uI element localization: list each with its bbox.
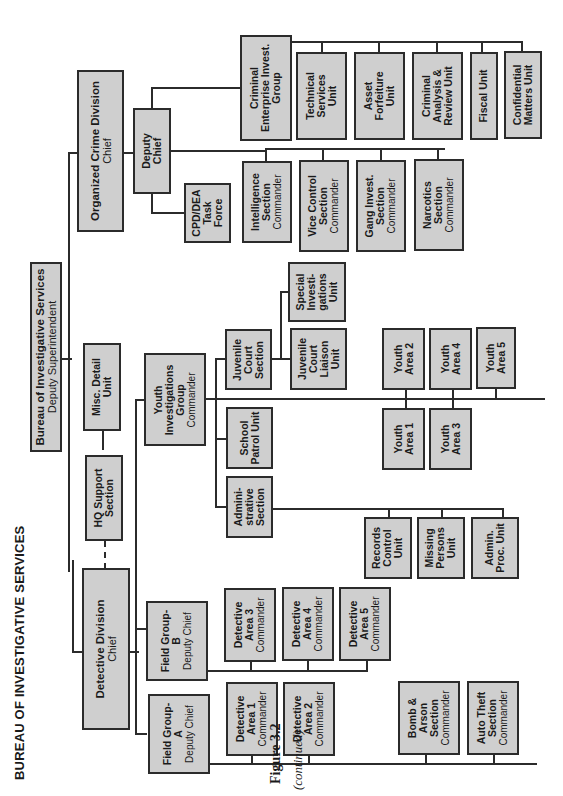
field-group-a-box: Field Group- ADeputy Chief [148,694,210,774]
connector [215,486,217,508]
figure-note: (continued) [290,730,306,790]
box-role: Commander [256,593,267,657]
youth-area-1-box: Youth Area 1 [382,408,425,470]
box-title: Detective Area 4 [291,592,313,656]
box-title: Field Group- B [160,606,182,676]
detective-area-4-box: Detective Area 4Commander [282,587,334,661]
box-role: Commander [387,166,398,246]
auto-theft-section-box: Auto Theft SectionCommander [467,681,519,755]
box-title: Vice Control Section [307,166,329,246]
connector [380,148,382,160]
box-role: Commander [499,688,510,748]
box-title: Deputy Chief [141,121,163,181]
vice-control-section-box: Vice Control SectionCommander [299,160,349,252]
connector [151,193,153,213]
box-title: Misc. Detail Unit [91,352,113,422]
box-title: Youth Area 2 [392,334,414,384]
box-title: School Patrol Unit [238,410,260,466]
box-title: Youth Area 1 [392,414,414,464]
box-title: Fiscal Unit [478,69,489,122]
box-title: Criminal Analysis & Review Unit [421,56,454,136]
page-title: BUREAU OF INVESTIGATIVE SERVICES [12,380,32,780]
box-title: Detective Area 5 [348,592,370,656]
connector [205,398,215,400]
box-role: Commander [314,592,325,656]
bureau-box: Bureau of Investigative ServicesDeputy S… [30,262,62,452]
gang-invest-section-box: Gang Invest. SectionCommander [356,160,406,252]
box-title: CPD/DEA Task Force [191,186,224,240]
juvenile-court-section-box: Juvenile Court Section [225,329,272,390]
box-role: Commander [445,170,456,240]
box-role: Commander [330,166,341,246]
intelligence-section-box: Intelligence SectionCommander [242,161,292,243]
youth-investigations-group-box: Youth Investigations GroupCommander [144,353,206,446]
juvenile-court-liaison-unit-box: Juvenile Court Liaison Unit [290,328,347,390]
box-title: Youth Area 4 [439,334,461,384]
connector [322,148,324,160]
administrative-section-box: Admini- strative Section [226,476,273,538]
box-role: Commander [441,688,452,748]
box-title: Juvenile Court Liaison Unit [296,331,340,387]
box-title: Detective Division [94,599,106,698]
box-role: Commander [315,687,326,751]
box-title: Bomb & Arson Section [407,688,440,748]
connector [151,212,185,214]
box-title: Auto Theft Section [476,688,498,748]
box-title: Special Investi- gations Unit [295,264,339,320]
connector [215,358,217,488]
figure-label: Figure 3.2 [268,724,284,784]
box-title: Organized Crime Division [88,81,100,221]
connector [72,560,74,653]
oc-deputy-chief-box: Deputy Chief [133,108,171,194]
school-patrol-unit-box: School Patrol Unit [226,407,273,469]
youth-area-5-box: Youth Area 5 [476,327,516,389]
field-group-b-box: Field Group- BDeputy Chief [146,601,208,681]
detective-area-3-box: Detective Area 3Commander [224,588,276,662]
connector [68,152,70,572]
box-title: Field Group- A [162,699,184,769]
detective-division-box: Detective DivisionChief [82,568,130,730]
connector [290,41,522,43]
organized-crime-division-box: Organized Crime DivisionChief [77,70,124,232]
asset-forfeiture-box: Asset Forfeiture Unit [354,52,405,140]
bomb-arson-section-box: Bomb & Arson SectionCommander [398,681,460,755]
fiscal-unit-box: Fiscal Unit [470,52,498,140]
connector [265,148,445,150]
box-title: Admini- strative Section [233,479,266,535]
youth-area-4-box: Youth Area 4 [429,328,472,390]
box-title: Missing Persons Unit [424,520,457,576]
box-title: HQ Support Section [93,463,115,533]
box-title: Youth Area 3 [439,414,461,464]
connector [170,150,266,152]
connector [135,733,147,735]
box-title: Criminal Enterprise Invest. Group [249,43,282,133]
connector [151,87,241,89]
box-title: Technical Services Unit [305,64,338,128]
box-role: Commander [273,164,284,240]
box-title: Narcotics Section [422,170,444,240]
box-title: Gang Invest. Section [364,166,386,246]
box-role: Deputy Chief [183,606,194,676]
connector [135,399,137,734]
detective-area-5-box: Detective Area 5Commander [339,587,391,661]
special-investigations-unit-box: Special Investi- gations Unit [288,262,346,322]
box-title: Intelligence Section [250,164,272,240]
narcotics-section-box: Narcotics SectionCommander [414,159,464,251]
box-role: Deputy Superintendent [47,268,59,445]
connector [62,358,72,360]
box-title: Juvenile Court Section [232,332,265,388]
dashed-connector [104,541,106,569]
box-title: Admin. Proc. Unit [484,520,506,576]
criminal-analysis-box: Criminal Analysis & Review Unit [412,52,463,140]
connector [307,670,367,672]
confidential-matters-box: Confidential Matters Unit [504,51,542,139]
technical-services-box: Technical Services Unit [296,52,347,140]
box-role: Commander [187,355,198,445]
box-title: Detective Area 1 [235,687,257,751]
youth-area-3-box: Youth Area 3 [429,408,472,470]
connector [102,430,104,450]
connector [129,651,139,653]
cpd-dea-task-force-box: CPD/DEA Task Force [184,183,231,243]
connector [207,763,537,765]
misc-detail-unit-box: Misc. Detail Unit [83,343,121,431]
